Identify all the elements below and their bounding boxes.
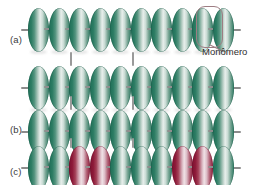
chain-connector-tick: [132, 138, 134, 148]
chain-connector-tick: [70, 138, 72, 148]
chain-connector-tick: [132, 96, 134, 110]
monomer-unit: [213, 66, 234, 110]
monomer-disc-green: [213, 66, 234, 110]
monomer-chain: [28, 66, 234, 110]
monomer-highlight-box: [196, 6, 223, 48]
polymer-chain-diagram: (a) (b) (c) Monômero: [0, 0, 269, 185]
chain-connector-tick: [70, 96, 72, 110]
row-label-c: (c): [10, 166, 22, 177]
monomer-disc-green: [213, 146, 234, 185]
chain-connector-tick: [70, 52, 72, 66]
monomer-unit: [213, 146, 234, 185]
row-label-a: (a): [10, 34, 22, 45]
monomer-label: Monômero: [202, 46, 247, 57]
chain-connector-tick: [132, 52, 134, 66]
monomer-chain: [28, 146, 234, 185]
row-label-b: (b): [10, 124, 22, 135]
